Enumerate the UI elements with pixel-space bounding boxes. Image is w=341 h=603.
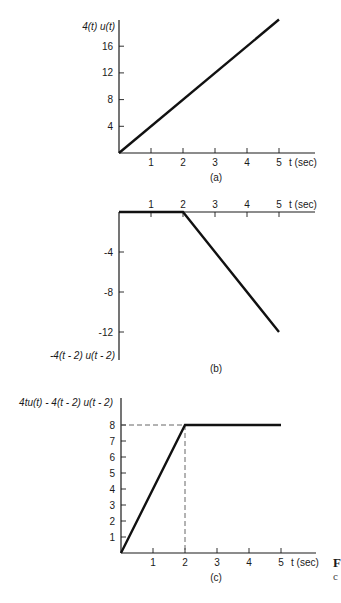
x-tick-label: 2 — [182, 557, 188, 568]
y-tick-label: 2 — [109, 516, 115, 527]
y-tick-label: 1 — [109, 532, 115, 543]
x-tick-label: 1 — [148, 199, 154, 210]
data-series-line — [119, 20, 279, 154]
x-tick-label: 4 — [246, 557, 252, 568]
data-series-line — [119, 212, 279, 332]
data-series-line — [121, 425, 281, 553]
x-tick-label: 3 — [212, 157, 218, 168]
y-axis-label: 4tu(t) - 4(t - 2) u(t - 2) — [19, 397, 113, 408]
side-text-line1: F — [333, 556, 341, 570]
y-tick-label: -8 — [104, 287, 113, 298]
panel-caption: (b) — [210, 363, 222, 374]
y-tick-label: 16 — [102, 41, 114, 52]
x-tick-label: 1 — [150, 557, 156, 568]
x-tick-label: 2 — [180, 199, 186, 210]
panel-caption: (c) — [210, 572, 222, 583]
y-tick-label: 8 — [107, 94, 113, 105]
x-tick-label: 3 — [212, 199, 218, 210]
y-tick-label: 7 — [109, 436, 115, 447]
chart-panel-c: 12345t (sec)123456784tu(t) - 4(t - 2) u(… — [19, 397, 319, 583]
y-tick-label: 5 — [109, 468, 115, 479]
y-tick-label: -4 — [104, 247, 113, 258]
y-axis-label: 4(t) u(t) — [82, 21, 115, 32]
y-tick-label: -12 — [99, 327, 114, 338]
x-tick-label: 5 — [276, 157, 282, 168]
y-tick-label: 3 — [109, 500, 115, 511]
x-axis-label: t (sec) — [289, 157, 317, 168]
y-tick-label: 4 — [107, 121, 113, 132]
y-tick-label: 6 — [109, 452, 115, 463]
x-axis-label: t (sec) — [289, 199, 317, 210]
x-axis-label: t (sec) — [291, 557, 319, 568]
x-tick-label: 4 — [244, 157, 250, 168]
side-text-line2: c — [333, 570, 341, 583]
chart-panel-a: 12345t (sec)4812164(t) u(t)(a) — [82, 20, 317, 184]
x-tick-label: 3 — [214, 557, 220, 568]
x-tick-label: 5 — [278, 557, 284, 568]
x-tick-label: 2 — [180, 157, 186, 168]
x-tick-label: 4 — [244, 199, 250, 210]
y-tick-label: 8 — [109, 420, 115, 431]
y-axis-label: -4(t - 2) u(t - 2) — [50, 350, 115, 361]
cropped-side-text: F c — [333, 556, 341, 583]
y-tick-label: 4 — [109, 484, 115, 495]
x-tick-label: 1 — [148, 157, 154, 168]
panel-caption: (a) — [210, 172, 222, 183]
chart-panel-b: 12345t (sec)-4-8-12-4(t - 2) u(t - 2)(b) — [50, 199, 317, 374]
y-tick-label: 12 — [102, 67, 114, 78]
x-tick-label: 5 — [276, 199, 282, 210]
